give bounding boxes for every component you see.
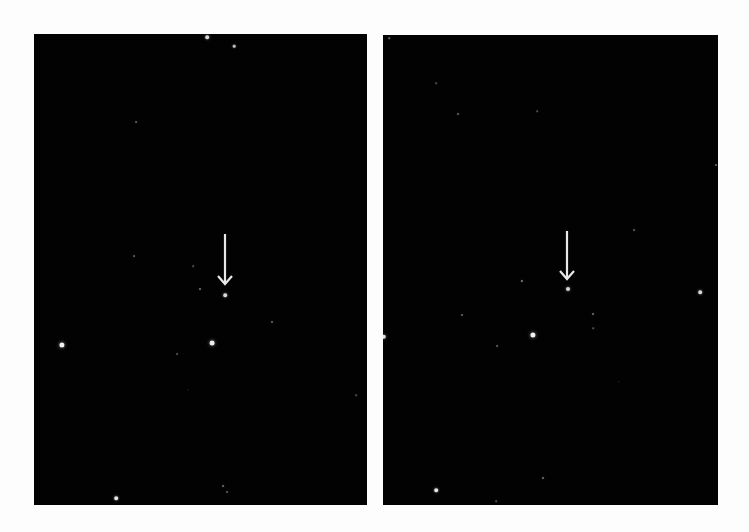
star bbox=[461, 314, 463, 316]
star bbox=[495, 500, 497, 502]
star bbox=[187, 389, 188, 390]
star bbox=[457, 113, 459, 115]
target-star bbox=[223, 293, 227, 297]
star bbox=[536, 110, 538, 112]
arrow-down-icon bbox=[215, 234, 235, 286]
star bbox=[226, 491, 228, 493]
star bbox=[114, 496, 118, 500]
star bbox=[542, 477, 544, 479]
star bbox=[434, 488, 438, 492]
star bbox=[698, 290, 702, 294]
star bbox=[435, 82, 437, 84]
star bbox=[135, 121, 137, 123]
star bbox=[205, 35, 209, 39]
star bbox=[176, 353, 178, 355]
star-field-panel-left bbox=[34, 34, 367, 505]
target-star bbox=[566, 287, 570, 291]
star bbox=[222, 485, 224, 487]
star bbox=[496, 345, 498, 347]
star bbox=[59, 342, 64, 347]
star bbox=[355, 394, 357, 396]
star bbox=[383, 335, 386, 339]
star bbox=[388, 37, 390, 39]
star bbox=[592, 313, 594, 315]
star bbox=[271, 321, 273, 323]
star bbox=[192, 265, 194, 267]
star bbox=[521, 280, 523, 282]
star bbox=[592, 327, 594, 329]
star-field-panel-right bbox=[383, 35, 718, 505]
star bbox=[233, 45, 236, 48]
arrow-down-icon bbox=[557, 231, 577, 281]
star bbox=[199, 288, 201, 290]
star bbox=[633, 229, 635, 231]
star bbox=[530, 332, 535, 337]
star bbox=[715, 164, 717, 166]
star bbox=[133, 255, 135, 257]
star bbox=[618, 381, 619, 382]
star bbox=[210, 341, 215, 346]
